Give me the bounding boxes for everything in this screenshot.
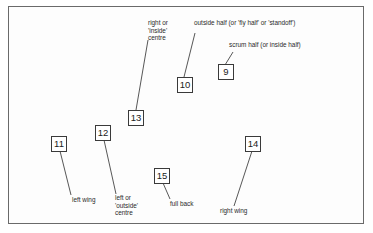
leader-lines: [0, 0, 373, 233]
label-outside-centre: left or 'outside' centre: [115, 194, 138, 217]
position-box-11: 11: [51, 136, 67, 152]
position-box-14: 14: [245, 136, 261, 152]
position-box-12: 12: [95, 125, 111, 141]
label-left-wing: left wing: [72, 196, 95, 204]
label-scrum-half: scrum half (or inside half): [229, 41, 301, 49]
label-outside-half: outside half (or 'fly half' or 'standoff…: [194, 19, 295, 27]
label-line: 'inside': [148, 27, 168, 35]
label-line: right or: [148, 19, 168, 27]
leader-line-14: [234, 151, 252, 206]
leader-line-15: [163, 183, 170, 199]
label-inside-centre: right or 'inside' centre: [148, 19, 168, 42]
label-line: centre: [148, 34, 168, 42]
leader-line-12: [104, 140, 116, 194]
leader-line-11: [60, 151, 71, 195]
label-line: 'outside': [115, 202, 138, 210]
leader-line-10: [184, 33, 195, 77]
leader-line-13: [136, 40, 148, 110]
label-right-wing: right wing: [220, 207, 247, 215]
position-box-15: 15: [154, 168, 170, 184]
label-line: left or: [115, 194, 138, 202]
label-line: centre: [115, 209, 138, 217]
position-box-9: 9: [218, 64, 234, 80]
label-full-back: full back: [170, 200, 193, 208]
position-box-10: 10: [177, 77, 193, 93]
position-box-13: 13: [128, 110, 144, 126]
